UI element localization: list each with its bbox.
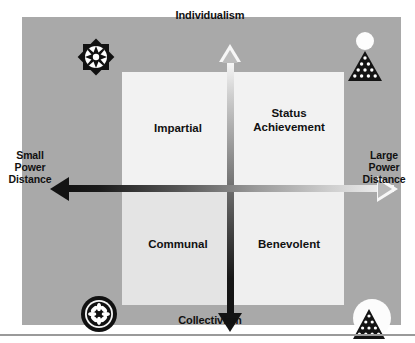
- diagram-panel: Impartial Status Achievement Communal Be…: [22, 17, 401, 325]
- quadrant-label-status-achievement: Status Achievement: [235, 106, 343, 134]
- quadrant-label-benevolent: Benevolent: [235, 237, 343, 251]
- axis-label-small-power-distance-line1: Small: [1, 150, 59, 162]
- quadrant-label-impartial: Impartial: [126, 121, 230, 135]
- axis-label-large-power-distance-line1: Large: [354, 150, 414, 162]
- axis-label-individualism: Individualism: [152, 9, 268, 21]
- axis-label-small-power-distance-line3: Distance: [1, 174, 59, 186]
- quadrant-label-status-achievement-line1: Status: [235, 106, 343, 120]
- axis-label-large-power-distance-line3: Distance: [354, 174, 414, 186]
- quadrant-label-status-achievement-line2: Achievement: [235, 120, 343, 134]
- axis-label-large-power-distance-line2: Power: [354, 162, 414, 174]
- flower-in-circle-icon: [80, 295, 118, 333]
- compass-star-icon: [76, 37, 116, 77]
- axis-label-small-power-distance-line2: Power: [1, 162, 59, 174]
- horizontal-axis-shaft: [66, 185, 394, 192]
- axis-label-small-power-distance: Small Power Distance: [1, 150, 59, 185]
- axis-label-large-power-distance: Large Power Distance: [354, 150, 414, 185]
- pyramid-on-circle-icon: [348, 297, 396, 343]
- axis-label-collectivism: Collectivism: [152, 314, 268, 326]
- quadrant-label-communal: Communal: [126, 237, 230, 251]
- vertical-axis-arrowhead-up-inner-icon: [222, 50, 238, 63]
- diagram-page: Impartial Status Achievement Communal Be…: [0, 0, 415, 343]
- page-bottom-rule: [0, 334, 415, 336]
- circle-over-pyramid-icon: [344, 31, 386, 83]
